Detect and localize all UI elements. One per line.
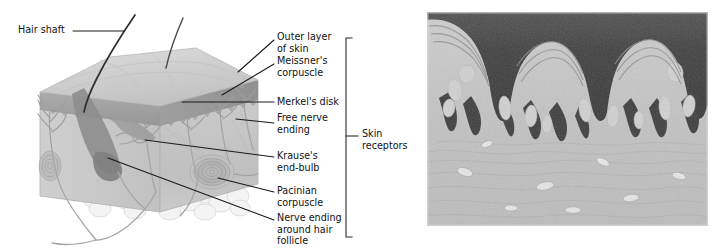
- label-merkels-disk: Merkel's disk: [277, 96, 339, 108]
- label-outer-layer-of-skin: Outer layer of skin: [277, 31, 331, 54]
- histology-photo-panel: [420, 0, 717, 250]
- label-pacinian-corpuscle: Pacinian corpuscle: [277, 185, 323, 208]
- label-free-nerve-ending: Free nerve ending: [277, 112, 328, 135]
- label-skin-receptors: Skin receptors: [362, 128, 407, 151]
- skin-histology-photomicrograph: [427, 12, 708, 226]
- label-hair-shaft: Hair shaft: [18, 24, 65, 36]
- label-meissners-corpuscle: Meissner's corpuscle: [277, 55, 327, 78]
- skin-receptors-figure: Hair shaft Outer layer of skin Meissner'…: [0, 0, 717, 250]
- photo-grain-overlay-dark: [427, 12, 708, 226]
- label-krauses-end-bulb: Krause's end-bulb: [277, 150, 319, 173]
- skin-receptors-bracket: [346, 38, 358, 237]
- label-nerve-ending-around-hair-follicle: Nerve ending around hair follicle: [277, 212, 342, 247]
- skin-block-illustration: [0, 0, 420, 250]
- skin-diagram-panel: Hair shaft Outer layer of skin Meissner'…: [0, 0, 420, 250]
